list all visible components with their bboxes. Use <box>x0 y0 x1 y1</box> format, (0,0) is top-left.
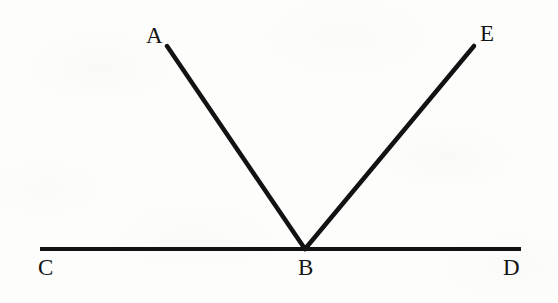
point-label-d: D <box>503 256 520 279</box>
diagram-canvas: A B C D E <box>0 0 558 303</box>
segment-ba <box>167 46 305 249</box>
point-label-e: E <box>480 22 494 45</box>
point-label-a: A <box>146 24 163 47</box>
segment-be <box>305 46 474 249</box>
angle-figure <box>0 0 558 303</box>
point-label-c: C <box>38 256 53 279</box>
point-label-b: B <box>298 256 313 279</box>
